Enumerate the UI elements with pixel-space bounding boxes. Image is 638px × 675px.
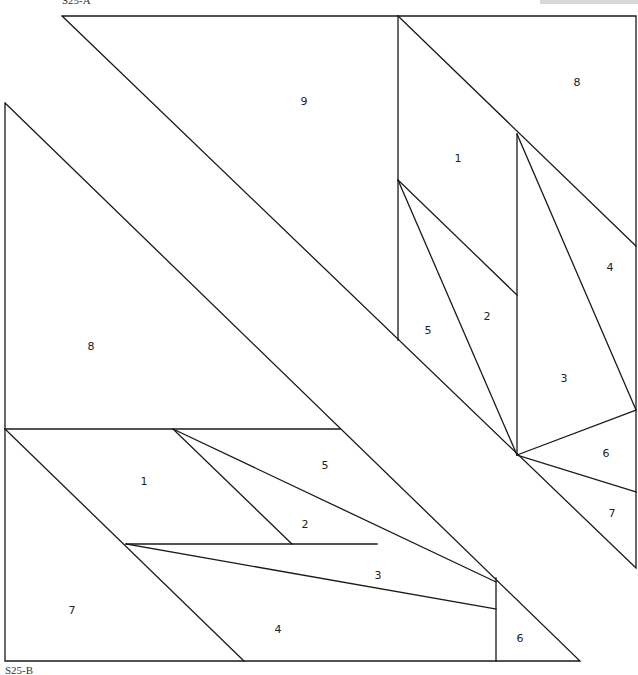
piece-label-a-9: 9 xyxy=(301,95,308,108)
piece-label-a-7: 7 xyxy=(609,507,616,520)
section-a-labels: 1 2 3 4 5 6 7 8 9 xyxy=(301,76,616,520)
piece-label-a-3: 3 xyxy=(561,372,568,385)
piece-label-a-4: 4 xyxy=(607,261,614,274)
piece-label-a-1: 1 xyxy=(455,152,462,165)
piece-label-a-5: 5 xyxy=(425,324,432,337)
piece-label-b-7: 7 xyxy=(69,604,76,617)
piece-label-a-2: 2 xyxy=(484,310,491,323)
section-b-outline xyxy=(5,103,580,661)
foundation-pattern-diagram: 1 2 3 4 5 6 7 8 9 1 2 3 4 5 6 7 8 xyxy=(0,0,638,675)
piece-label-b-4: 4 xyxy=(275,623,282,636)
piece-label-a-8: 8 xyxy=(574,76,581,89)
piece-label-b-3: 3 xyxy=(375,569,382,582)
piece-label-b-6: 6 xyxy=(517,632,524,645)
piece-label-b-8: 8 xyxy=(88,340,95,353)
piece-label-a-6: 6 xyxy=(603,447,610,460)
piece-label-b-2: 2 xyxy=(302,518,309,531)
piece-label-b-5: 5 xyxy=(322,459,329,472)
section-a-outline xyxy=(62,16,636,568)
piece-label-b-1: 1 xyxy=(141,475,148,488)
